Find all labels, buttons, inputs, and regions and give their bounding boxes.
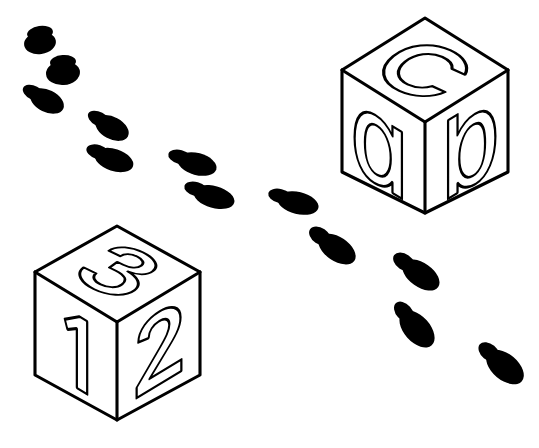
footprint-9-left	[306, 223, 362, 271]
footprint-3-left	[20, 81, 68, 118]
footprint-6-right	[167, 147, 220, 180]
number-block	[35, 226, 200, 420]
blocks-and-footprints-illustration	[0, 0, 539, 448]
footprint-4-right	[85, 107, 133, 146]
footprint-5-left	[84, 142, 136, 177]
footprint-10-right	[390, 249, 446, 297]
footprint-1-left	[23, 24, 58, 56]
footprint-11-left	[390, 298, 441, 354]
footprint-7-left	[183, 179, 238, 213]
illustration-canvas	[0, 0, 539, 448]
footprint-12-right	[475, 338, 531, 391]
footprint-2-right	[45, 54, 81, 86]
letter-block	[342, 18, 508, 213]
footprint-8-right	[267, 186, 321, 218]
